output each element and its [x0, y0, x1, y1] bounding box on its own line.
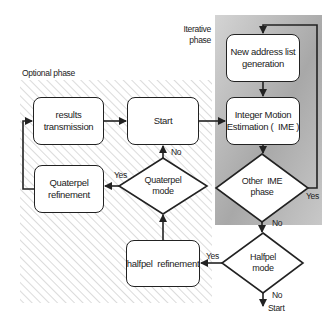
optional-phase-label: Optional phase: [22, 68, 75, 79]
other-ime-phase-label: Other IME phase: [232, 176, 292, 198]
other-ime-phase-line2: phase: [232, 187, 292, 198]
quaterpel-refinement-line1: Quaterpel: [48, 177, 90, 189]
halfpel-refinement-box: halfpel refinement: [126, 240, 200, 287]
halfpel-mode-label: Halfpel mode: [233, 252, 293, 274]
results-transmission-line1: results: [44, 109, 94, 121]
iterative-phase-label-line1: Iterative: [178, 24, 211, 35]
iterative-phase-label-line2: phase: [178, 35, 211, 46]
new-address-list-line2: generation: [231, 58, 296, 70]
start-box-label: Start: [154, 115, 173, 127]
quaterpel-mode-line1: Quaterpel: [133, 175, 193, 186]
halfpel-mode-line1: Halfpel: [233, 252, 293, 263]
start-box: Start: [127, 97, 199, 145]
edge-label-qmode-no: No: [171, 147, 181, 158]
quaterpel-mode-label: Quaterpel mode: [133, 175, 193, 197]
halfpel-refinement-label: halfpel refinement: [127, 258, 199, 270]
edge-label-halfpel-yes: Yes: [206, 251, 219, 262]
edge-label-other-yes: Yes: [306, 191, 319, 202]
iterative-phase-label: Iterative phase: [178, 24, 211, 46]
results-transmission-line2: transmission: [44, 121, 94, 133]
edge-label-other-no: No: [272, 218, 282, 229]
quaterpel-mode-line2: mode: [133, 186, 193, 197]
results-transmission-box: results transmission: [33, 97, 104, 145]
other-ime-phase-line1: Other IME: [232, 176, 292, 187]
halfpel-mode-line2: mode: [233, 263, 293, 274]
ime-box: Integer Motion Estimation ( IME ): [226, 97, 300, 145]
quaterpel-refinement-box: Quaterpel refinement: [34, 165, 104, 213]
edge-label-halfpel-no: No: [272, 290, 282, 301]
ime-line2: Estimation ( IME ): [227, 121, 299, 133]
edge-label-qmode-yes: Yes: [114, 170, 127, 181]
quaterpel-refinement-line2: refinement: [48, 189, 90, 201]
terminal-start-label: Start: [268, 303, 284, 314]
new-address-list-box: New address list generation: [226, 34, 300, 82]
new-address-list-line1: New address list: [231, 46, 296, 58]
ime-line1: Integer Motion: [227, 109, 299, 121]
